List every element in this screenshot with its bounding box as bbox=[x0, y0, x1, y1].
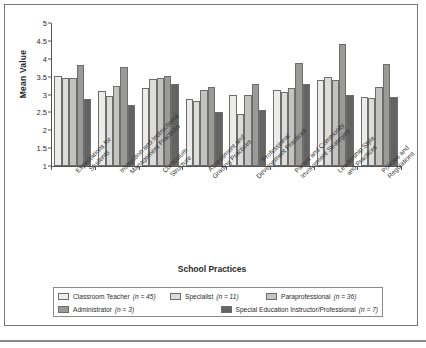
legend-label: Special Education Instructor/Professiona… bbox=[236, 306, 356, 313]
y-axis-tick-label: 2.5 bbox=[37, 108, 47, 117]
bar bbox=[120, 67, 127, 166]
legend-item: Classroom Teacher(n = 45) bbox=[58, 293, 170, 300]
y-axis-tick-label: 2 bbox=[43, 126, 47, 135]
chart-legend: Classroom Teacher(n = 45)Specialist(n = … bbox=[53, 287, 383, 317]
x-axis-tick-mark bbox=[357, 166, 358, 170]
y-axis-tick-label: 1 bbox=[43, 162, 47, 171]
legend-sample-size: (n = 3) bbox=[115, 306, 134, 313]
bar bbox=[208, 87, 215, 166]
bar bbox=[113, 86, 120, 166]
y-axis-tick-label: 3 bbox=[43, 90, 47, 99]
legend-color-swatch bbox=[170, 293, 181, 300]
bar bbox=[244, 95, 251, 167]
legend-color-swatch bbox=[266, 293, 277, 300]
y-axis-tick-label: 4.5 bbox=[37, 36, 47, 45]
legend-item: Specialist(n = 11) bbox=[170, 293, 266, 300]
legend-label: Paraprofessional bbox=[281, 293, 330, 300]
bar bbox=[54, 76, 61, 166]
legend-item: Administrator(n = 3) bbox=[58, 306, 221, 313]
bar bbox=[375, 87, 382, 166]
x-axis-category-labels: Expectations forStudentsInstruction and … bbox=[51, 169, 402, 261]
bar bbox=[295, 63, 302, 166]
bar bbox=[200, 90, 207, 166]
x-axis-tick-mark bbox=[401, 166, 402, 170]
bar bbox=[77, 65, 84, 166]
chart-figure-frame: Mean Value 11.522.533.544.55 Expectation… bbox=[4, 4, 418, 326]
x-axis-tick-mark bbox=[51, 166, 52, 170]
legend-row-2: Administrator(n = 3)Special Education In… bbox=[58, 304, 378, 315]
y-axis-tick-label: 1.5 bbox=[37, 144, 47, 153]
y-axis-title: Mean Value bbox=[18, 29, 28, 119]
legend-row-1: Classroom Teacher(n = 45)Specialist(n = … bbox=[58, 291, 378, 302]
y-axis-tick-label: 4 bbox=[43, 54, 47, 63]
legend-label: Specialist bbox=[185, 293, 213, 300]
legend-sample-size: (n = 45) bbox=[133, 293, 156, 300]
y-axis-tick-label: 3.5 bbox=[37, 72, 47, 81]
x-axis-tick-mark bbox=[182, 166, 183, 170]
legend-color-swatch bbox=[58, 306, 69, 313]
bar bbox=[252, 84, 259, 166]
x-axis-tick-mark bbox=[139, 166, 140, 170]
legend-color-swatch bbox=[221, 306, 232, 313]
legend-item: Special Education Instructor/Professiona… bbox=[221, 306, 378, 313]
x-axis-title: School Practices bbox=[5, 264, 419, 274]
legend-sample-size: (n = 11) bbox=[216, 293, 238, 300]
page-bottom-rule bbox=[0, 340, 426, 342]
legend-color-swatch bbox=[58, 293, 69, 300]
x-axis-tick-mark bbox=[226, 166, 227, 170]
bar bbox=[62, 78, 69, 166]
chart-plot-wrapper: Mean Value 11.522.533.544.55 Expectation… bbox=[5, 5, 419, 327]
legend-label: Administrator bbox=[73, 306, 112, 313]
legend-item: Paraprofessional(n = 36) bbox=[266, 293, 356, 300]
bar-group bbox=[51, 23, 95, 166]
legend-sample-size: (n = 36) bbox=[333, 293, 356, 300]
x-axis-tick-mark bbox=[95, 166, 96, 170]
bar bbox=[69, 78, 76, 166]
x-axis-tick-mark bbox=[270, 166, 271, 170]
legend-sample-size: (n = 7) bbox=[359, 306, 378, 313]
bar bbox=[339, 44, 346, 166]
y-axis-tick-label: 5 bbox=[43, 19, 47, 28]
bar bbox=[383, 64, 390, 166]
x-axis-tick-mark bbox=[314, 166, 315, 170]
bar-group bbox=[182, 23, 226, 166]
legend-label: Classroom Teacher bbox=[73, 293, 130, 300]
